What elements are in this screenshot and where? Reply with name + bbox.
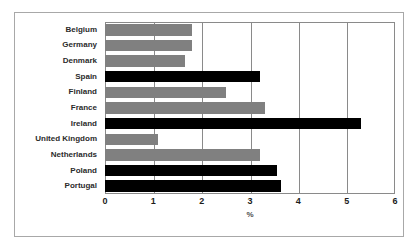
bar-germany [105,40,192,52]
category-label-poland: Poland [14,166,101,176]
bar-row [105,24,395,36]
bar-netherlands [105,149,260,161]
category-label-finland: Finland [14,87,101,97]
bar-row [105,134,395,146]
category-label-germany: Germany [14,40,101,50]
x-tick-2: 2 [192,196,212,206]
category-label-netherlands: Netherlands [14,150,101,160]
x-tick-0: 0 [95,196,115,206]
category-label-belgium: Belgium [14,25,101,35]
bar-poland [105,165,277,177]
category-label-spain: Spain [14,72,101,82]
bar-france [105,102,265,114]
bar-united-kingdom [105,134,158,146]
bars-layer [105,22,395,194]
category-label-ireland: Ireland [14,119,101,129]
x-tick-6: 6 [385,196,405,206]
x-tick-4: 4 [288,196,308,206]
bar-row [105,55,395,67]
bar-portugal [105,180,281,192]
bar-row [105,180,395,192]
category-label-denmark: Denmark [14,56,101,66]
category-axis-labels: BelgiumGermanyDenmarkSpainFinlandFranceI… [14,22,101,194]
bar-row [105,71,395,83]
x-tick-1: 1 [143,196,163,206]
chart-figure: BelgiumGermanyDenmarkSpainFinlandFranceI… [0,0,418,249]
bar-row [105,118,395,130]
x-tick-5: 5 [337,196,357,206]
bar-row [105,149,395,161]
bar-ireland [105,118,361,130]
category-label-france: France [14,103,101,113]
bar-spain [105,71,260,83]
bar-row [105,102,395,114]
bar-finland [105,87,226,99]
x-tick-3: 3 [240,196,260,206]
x-axis-tick-labels: 0123456 [105,196,395,210]
bar-row [105,40,395,52]
bar-row [105,165,395,177]
category-label-united-kingdom: United Kingdom [14,134,101,144]
bar-row [105,87,395,99]
x-axis-title: % [105,210,395,219]
bar-belgium [105,24,192,36]
bar-denmark [105,55,185,67]
category-label-portugal: Portugal [14,181,101,191]
